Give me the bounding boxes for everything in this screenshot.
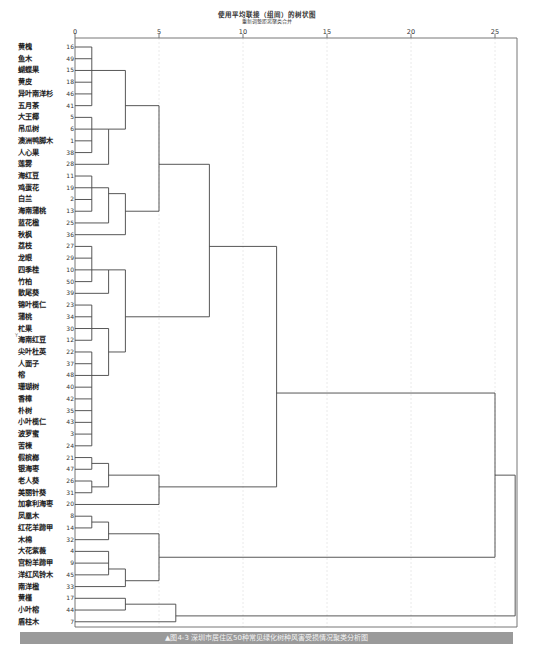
figure-caption: ▲图4-3 深圳市居住区50种常见绿化树种风害受损情况聚类分析图 <box>20 632 513 644</box>
dendrogram-plot <box>0 0 533 653</box>
